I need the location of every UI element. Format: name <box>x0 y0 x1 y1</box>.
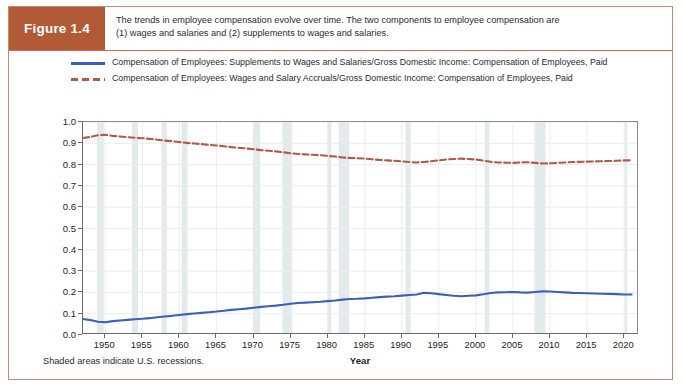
x-axis-tick-mark <box>475 334 476 338</box>
x-axis-tick-label: 1990 <box>390 339 411 350</box>
x-axis-tick-mark <box>438 334 439 338</box>
y-axis-tick-label: 0.4 <box>63 243 76 254</box>
legend-label-supplements: Compensation of Employees: Supplements t… <box>112 57 608 69</box>
figure-header: Figure 1.4 The trends in employee compen… <box>9 7 672 51</box>
y-axis-tick-mark <box>78 313 82 314</box>
x-axis-tick-mark <box>141 334 142 338</box>
figure-caption: The trends in employee compensation evol… <box>105 7 672 50</box>
x-axis-tick-mark <box>253 334 254 338</box>
x-axis-tick-mark <box>586 334 587 338</box>
y-axis-tick-label: 0.8 <box>63 158 76 169</box>
x-axis-tick-mark <box>327 334 328 338</box>
y-axis-tick-mark <box>78 185 82 186</box>
y-axis-tick-label: 0.1 <box>63 307 76 318</box>
y-axis-tick-mark <box>78 249 82 250</box>
y-axis-tick-label: 1.0 <box>63 116 76 127</box>
x-axis-tick-label: 1970 <box>242 339 263 350</box>
x-axis-tick-mark <box>401 334 402 338</box>
legend-label-supplements-line-1: Compensation of Employees: Supplements t… <box>112 57 529 67</box>
x-axis-tick-label: 1950 <box>94 339 115 350</box>
x-axis-tick-label: 1975 <box>279 339 300 350</box>
y-axis-tick-label: 0.2 <box>63 286 76 297</box>
x-axis-tick-mark <box>364 334 365 338</box>
y-axis-tick-mark <box>78 164 82 165</box>
y-axis-tick-label: 0.6 <box>63 201 76 212</box>
legend-label-wages: Compensation of Employees: Wages and Sal… <box>112 73 573 85</box>
legend-label-supplements-line-2: of Employees, Paid <box>532 57 608 67</box>
figure-number-badge: Figure 1.4 <box>9 7 105 50</box>
x-axis-tick-mark <box>215 334 216 338</box>
chart-footnote: Shaded areas indicate U.S. recessions. <box>43 356 204 366</box>
x-axis-tick-mark <box>549 334 550 338</box>
y-axis-tick-label: 0.9 <box>63 137 76 148</box>
x-axis-tick-label: 1995 <box>427 339 448 350</box>
x-axis-tick-label: 2020 <box>613 339 634 350</box>
legend-item-wages: Compensation of Employees: Wages and Sal… <box>71 73 661 86</box>
chart-axes <box>82 121 638 334</box>
y-axis-tick-mark <box>78 291 82 292</box>
x-axis-tick-label: 2000 <box>464 339 485 350</box>
figure-caption-line-1: The trends in employee compensation evol… <box>116 14 660 27</box>
x-axis-tick-label: 2015 <box>576 339 597 350</box>
x-axis-tick-mark <box>178 334 179 338</box>
x-axis-tick-label: 1960 <box>168 339 189 350</box>
chart-legend: Compensation of Employees: Supplements t… <box>71 57 661 89</box>
x-axis-tick-label: 2010 <box>539 339 560 350</box>
x-axis-tick-label: 1965 <box>205 339 226 350</box>
legend-line-solid-icon <box>71 57 105 70</box>
x-axis-tick-mark <box>290 334 291 338</box>
y-axis-tick-mark <box>78 121 82 122</box>
y-axis-tick-label: 0.0 <box>63 329 76 340</box>
x-axis-tick-label: 1985 <box>353 339 374 350</box>
chart-plot-area: Bil. of $/Bil. of $ 0.00.10.20.30.40.50.… <box>82 121 638 334</box>
y-axis-tick-mark <box>78 270 82 271</box>
figure-container: Figure 1.4 The trends in employee compen… <box>8 6 673 380</box>
y-axis-tick-mark <box>78 206 82 207</box>
y-axis-tick-mark <box>78 228 82 229</box>
y-axis-tick-label: 0.3 <box>63 265 76 276</box>
legend-label-wages-line-2: Employees, Paid <box>507 73 573 83</box>
x-axis-tick-label: 2005 <box>502 339 523 350</box>
legend-line-dashed-icon <box>71 73 105 86</box>
x-axis-tick-label: 1955 <box>131 339 152 350</box>
x-axis-tick-mark <box>104 334 105 338</box>
x-axis-tick-label: 1980 <box>316 339 337 350</box>
y-axis-tick-label: 0.7 <box>63 179 76 190</box>
x-axis-tick-mark <box>623 334 624 338</box>
y-axis-tick-mark <box>78 142 82 143</box>
figure-caption-line-2: (1) wages and salaries and (2) supplemen… <box>116 27 660 40</box>
y-axis-tick-label: 0.5 <box>63 222 76 233</box>
chart-series-canvas <box>83 122 638 334</box>
legend-item-supplements: Compensation of Employees: Supplements t… <box>71 57 661 70</box>
legend-label-wages-line-1: Compensation of Employees: Wages and Sal… <box>112 73 504 83</box>
x-axis-tick-mark <box>512 334 513 338</box>
y-axis-tick-mark <box>78 334 82 335</box>
